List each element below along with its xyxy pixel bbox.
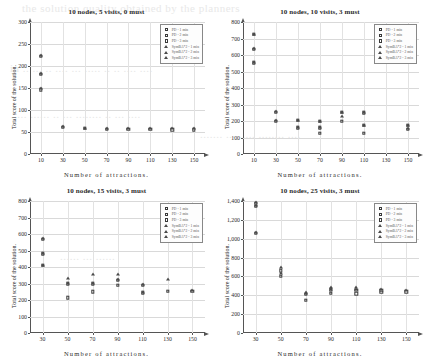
triangle-marker-icon — [279, 266, 283, 269]
x-axis-label: Number of attractions. — [213, 350, 427, 357]
legend-key-glyph — [164, 235, 168, 238]
triangle-marker-icon — [116, 273, 120, 276]
data-point-square — [91, 290, 94, 293]
data-point-square — [116, 283, 119, 286]
x-tick-label: 30 — [60, 157, 66, 163]
x-tick-mark — [381, 333, 382, 335]
square-marker-icon — [163, 213, 169, 216]
gridline-horizontal — [30, 66, 205, 67]
x-tick-mark — [298, 154, 299, 156]
x-tick-mark — [306, 333, 307, 335]
y-tick-mark — [241, 138, 243, 139]
gridline-vertical — [107, 22, 108, 154]
y-tick-label: 500 — [231, 69, 240, 75]
legend-key-glyph — [379, 28, 382, 31]
legend-item[interactable]: SymBA*2 - 3 min — [163, 55, 199, 61]
x-tick-mark — [356, 333, 357, 335]
y-tick-mark — [28, 251, 30, 252]
legend-key-glyph — [378, 230, 382, 233]
x-tick-label: 110 — [360, 157, 368, 163]
x-tick-label: 150 — [188, 336, 197, 342]
x-tick-label: 50 — [278, 336, 284, 342]
data-point-triangle — [166, 277, 170, 280]
data-point-triangle — [340, 115, 344, 118]
gridline-vertical — [93, 201, 94, 333]
square-marker-icon — [163, 207, 169, 210]
legend-item[interactable]: SymBA*2 - 3 min — [377, 234, 413, 240]
data-point-triangle — [83, 126, 87, 129]
x-axis-arrow-icon — [204, 332, 209, 336]
x-axis-line — [243, 153, 419, 154]
y-tick-mark — [28, 317, 30, 318]
y-tick-mark — [28, 132, 30, 133]
triangle-marker-icon — [274, 110, 278, 113]
y-tick-label: 250 — [18, 41, 27, 47]
triangle-marker-icon — [83, 126, 87, 129]
data-point-triangle — [329, 288, 333, 291]
chart-legend: PD - 1 minPD - 2 minPD - 3 minSymBA*2 - … — [374, 203, 417, 243]
triangle-marker-icon — [141, 283, 145, 286]
square-marker-icon — [362, 132, 365, 135]
legend-label: SymBA*2 - 1 min — [386, 45, 413, 49]
data-point-triangle — [404, 289, 408, 292]
legend-label: SymBA*2 - 1 min — [386, 224, 413, 228]
legend-key-glyph — [165, 207, 168, 210]
legend-label: PD - 1 min — [386, 207, 402, 211]
y-tick-mark — [241, 239, 243, 240]
triangle-marker-icon — [252, 61, 256, 64]
y-tick-mark — [241, 55, 243, 56]
x-tick-mark — [93, 333, 94, 335]
y-tick-label: 200 — [231, 118, 240, 124]
x-tick-label: 130 — [382, 157, 391, 163]
x-tick-mark — [281, 333, 282, 335]
x-axis-line — [30, 153, 205, 154]
x-tick-label: 10 — [251, 157, 257, 163]
x-tick-label: 50 — [65, 336, 71, 342]
data-point-triangle — [296, 125, 300, 128]
gridline-vertical — [254, 22, 255, 154]
chart-panel-2: 10 nodes, 10 visits, 3 mustTotal score o… — [213, 0, 427, 179]
x-tick-mark — [107, 154, 108, 156]
x-tick-mark — [364, 154, 365, 156]
axes: 0501001502002503001030507090110130150PD … — [30, 22, 205, 154]
legend-label: PD - 1 min — [172, 28, 188, 32]
gridline-vertical — [298, 22, 299, 154]
triangle-marker-icon — [377, 51, 383, 54]
y-tick-label: 200 — [18, 297, 27, 303]
y-tick-mark — [241, 88, 243, 89]
triangle-marker-icon — [252, 32, 256, 35]
legend-label: PD - 1 min — [386, 28, 402, 32]
axes: 0100200300400500600700800305070901101301… — [30, 201, 205, 333]
triangle-marker-icon — [362, 111, 366, 114]
x-axis-label: Number of attractions. — [213, 171, 427, 178]
x-axis-arrow-icon — [418, 153, 423, 157]
triangle-marker-icon — [318, 126, 322, 129]
x-tick-mark — [128, 154, 129, 156]
legend-item[interactable]: SymBA*2 - 3 min — [377, 55, 413, 61]
gridline-horizontal — [243, 88, 419, 89]
chart-title: 10 nodes, 5 visits, 0 must — [0, 8, 213, 16]
legend-key-glyph — [378, 56, 382, 59]
x-tick-label: 30 — [40, 336, 46, 342]
data-point-triangle — [41, 251, 45, 254]
x-tick-label: 30 — [253, 336, 259, 342]
triangle-marker-icon — [41, 237, 45, 240]
plot-area: Total score of the solution.Number of at… — [0, 18, 213, 176]
y-tick-mark — [241, 72, 243, 73]
square-marker-icon — [163, 34, 169, 37]
gridline-vertical — [306, 201, 307, 333]
square-marker-icon — [66, 296, 69, 299]
triangle-marker-icon — [163, 224, 169, 227]
y-tick-mark — [241, 276, 243, 277]
y-tick-label: 1,000 — [227, 236, 240, 242]
legend-item[interactable]: SymBA*2 - 3 min — [163, 234, 199, 240]
data-point-triangle — [61, 125, 65, 128]
data-point-triangle — [41, 237, 45, 240]
square-marker-icon — [304, 299, 307, 302]
chart-legend: PD - 1 minPD - 2 minPD - 3 minSymBA*2 - … — [160, 24, 203, 64]
x-tick-mark — [168, 333, 169, 335]
chart-grid: 10 nodes, 5 visits, 0 mustTotal score of… — [0, 0, 427, 358]
figure-page: the solution quality obtained by the pla… — [0, 0, 427, 358]
x-tick-mark — [150, 154, 151, 156]
x-tick-mark — [320, 154, 321, 156]
